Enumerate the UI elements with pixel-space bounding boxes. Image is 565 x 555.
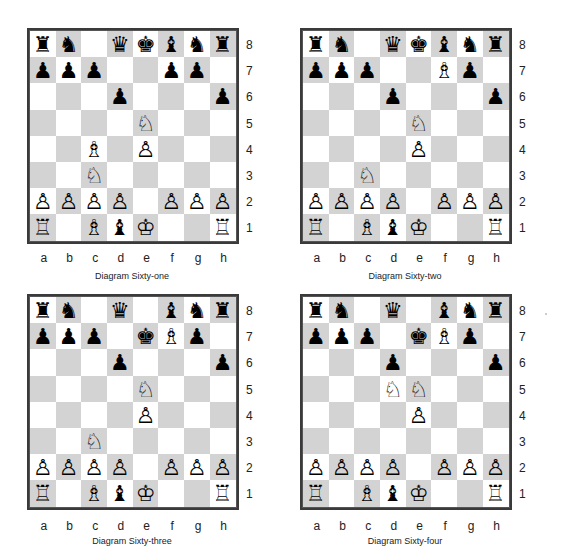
square-h4: [483, 136, 509, 162]
rank-label-7: 7: [519, 58, 526, 84]
white-rook-icon: ♖: [486, 483, 506, 505]
square-f2: ♙: [431, 454, 457, 480]
black-bishop-icon: ♝: [110, 483, 130, 505]
square-h1: ♖: [210, 214, 236, 240]
square-d5: [107, 110, 133, 136]
square-d4: [380, 136, 406, 162]
square-g6: [184, 349, 210, 375]
square-f7: ♟: [158, 57, 184, 83]
black-queen-icon: ♛: [383, 300, 403, 322]
file-label-a: a: [304, 251, 330, 265]
white-rook-icon: ♖: [33, 483, 53, 505]
rank-label-5: 5: [246, 111, 253, 137]
file-label-g: g: [458, 251, 484, 265]
black-pawn-icon: ♟: [33, 60, 53, 82]
square-b5: [329, 376, 355, 402]
black-pawn-icon: ♟: [110, 352, 130, 374]
square-f5: [158, 110, 184, 136]
square-f2: ♙: [431, 188, 457, 214]
square-d4: [380, 402, 406, 428]
white-pawn-icon: ♙: [187, 191, 207, 213]
square-b1: [329, 214, 355, 240]
file-label-f: f: [432, 519, 458, 533]
white-knight-icon: ♘: [409, 113, 429, 135]
square-f7: ♗: [431, 57, 457, 83]
square-h1: ♖: [483, 214, 509, 240]
white-rook-icon: ♖: [213, 483, 233, 505]
square-c8: [354, 31, 380, 57]
white-bishop-icon: ♗: [434, 60, 454, 82]
square-f3: [158, 162, 184, 188]
square-g7: ♟: [184, 57, 210, 83]
square-e3: [406, 162, 432, 188]
square-a1: ♖: [303, 214, 329, 240]
square-a4: [303, 402, 329, 428]
square-d7: [107, 57, 133, 83]
rank-label-6: 6: [519, 350, 526, 376]
white-pawn-icon: ♙: [434, 457, 454, 479]
square-c7: ♟: [81, 323, 107, 349]
square-a7: ♟: [303, 323, 329, 349]
black-pawn-icon: ♟: [486, 352, 506, 374]
square-f5: [158, 376, 184, 402]
square-a4: [30, 402, 56, 428]
black-pawn-icon: ♟: [357, 60, 377, 82]
white-pawn-icon: ♙: [486, 457, 506, 479]
white-pawn-icon: ♙: [357, 191, 377, 213]
black-knight-icon: ♞: [332, 34, 352, 56]
black-pawn-icon: ♟: [460, 60, 480, 82]
white-pawn-icon: ♙: [306, 191, 326, 213]
square-c3: ♘: [81, 428, 107, 454]
square-d6: ♟: [107, 349, 133, 375]
square-f4: [158, 136, 184, 162]
square-c7: ♟: [354, 323, 380, 349]
square-b3: [329, 428, 355, 454]
square-g2: ♙: [457, 454, 483, 480]
white-knight-icon: ♘: [84, 165, 104, 187]
black-pawn-icon: ♟: [213, 352, 233, 374]
file-label-f: f: [432, 251, 458, 265]
square-a7: ♟: [30, 57, 56, 83]
white-knight-icon: ♘: [357, 165, 377, 187]
file-label-c: c: [355, 251, 381, 265]
rank-label-7: 7: [519, 324, 526, 350]
square-e4: ♙: [406, 402, 432, 428]
white-bishop-icon: ♗: [161, 326, 181, 348]
square-b2: ♙: [56, 188, 82, 214]
square-c6: [354, 83, 380, 109]
rank-label-5: 5: [519, 377, 526, 403]
black-pawn-icon: ♟: [84, 326, 104, 348]
square-f1: [158, 214, 184, 240]
white-bishop-icon: ♗: [357, 483, 377, 505]
white-pawn-icon: ♙: [306, 457, 326, 479]
board-frame: ♜♞♛♚♝♞♜♟♟♟♟♟♟♟♘♗♙♘♙♙♙♙♙♙♙♖♗♝♔♖: [27, 28, 239, 244]
square-g3: [184, 162, 210, 188]
square-h3: [483, 428, 509, 454]
square-c4: [81, 402, 107, 428]
square-d2: ♙: [107, 188, 133, 214]
square-e2: [133, 454, 159, 480]
square-e5: ♘: [406, 110, 432, 136]
file-label-f: f: [159, 251, 185, 265]
black-knight-icon: ♞: [187, 34, 207, 56]
square-g3: [457, 428, 483, 454]
square-g1: [184, 214, 210, 240]
square-a6: [30, 83, 56, 109]
square-c1: ♗: [354, 214, 380, 240]
square-g1: [184, 480, 210, 506]
square-g8: ♞: [184, 31, 210, 57]
square-b1: [56, 214, 82, 240]
rank-label-4: 4: [519, 137, 526, 163]
black-pawn-icon: ♟: [306, 60, 326, 82]
square-c4: ♗: [81, 136, 107, 162]
square-h6: ♟: [210, 349, 236, 375]
white-knight-icon: ♘: [409, 379, 429, 401]
square-f3: [431, 162, 457, 188]
white-rook-icon: ♖: [306, 217, 326, 239]
square-h8: ♜: [483, 31, 509, 57]
square-b5: [329, 110, 355, 136]
square-e6: [133, 83, 159, 109]
white-knight-icon: ♘: [383, 379, 403, 401]
file-label-g: g: [185, 519, 211, 533]
rank-label-4: 4: [246, 137, 253, 163]
